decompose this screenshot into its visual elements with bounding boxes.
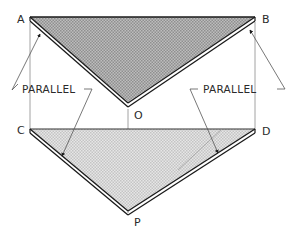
point-label-a: A <box>17 13 25 26</box>
parallel-label-right: PARALLEL <box>203 83 256 95</box>
lower-triangle-cdp <box>30 129 255 215</box>
point-label-o: O <box>134 109 143 122</box>
parallel-label-left: PARALLEL <box>22 83 75 95</box>
point-label-c: C <box>17 124 25 137</box>
point-label-d: D <box>262 125 270 138</box>
point-label-p: P <box>134 216 141 229</box>
leader-left-upper <box>12 34 40 90</box>
point-label-b: B <box>262 13 270 26</box>
parallel-lines-diagram: PARALLEL PARALLEL A B O C D P <box>0 0 289 234</box>
